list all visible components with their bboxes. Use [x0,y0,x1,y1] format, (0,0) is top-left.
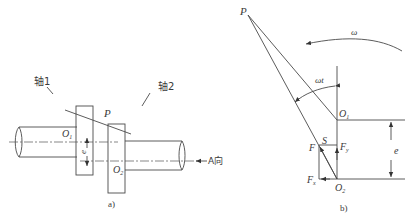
force-f-arrow [320,147,337,179]
point-s-label: S [322,135,327,146]
force-fx-label: Fx [306,174,316,186]
point-p-label: P [103,107,111,119]
omega-label: ω [351,27,357,37]
figure-b: P ω ωt O1 O2 F S Fy Fx e b) [239,5,405,213]
shaft1-label: 轴1 [34,75,50,87]
point-p-label-b: P [239,5,247,17]
center-o2-label-b: O2 [335,182,345,194]
figure-a: 轴1 轴2 P O1 O2 e A向 a) [9,75,223,209]
line-p [65,110,131,134]
caption-a: a) [108,199,115,209]
caption-b: b) [340,203,348,213]
shaft-2 [125,141,185,170]
disc-1 [76,106,93,175]
force-f-label: F [308,142,316,153]
disc-2 [108,124,125,193]
eccentricity-label-a: e [78,150,88,154]
eccentricity-label-b: e [394,145,399,156]
angle-label: ωt [315,75,324,85]
omega-arrow [306,39,402,51]
center-o1-label: O1 [62,128,72,140]
shaft2-label: 轴2 [158,80,174,92]
coupling-diagram: 轴1 轴2 P O1 O2 e A向 a) [0,0,407,216]
view-a-label: A向 [208,155,223,166]
force-fy-label: Fy [339,141,349,153]
center-o1-label-b: O1 [339,108,349,120]
center-o2-label: O2 [113,164,123,176]
